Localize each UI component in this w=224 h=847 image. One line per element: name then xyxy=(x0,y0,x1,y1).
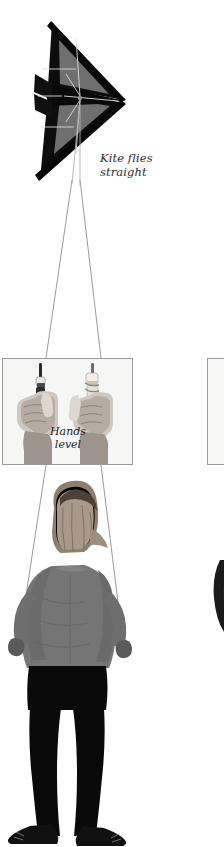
hands-caption-line2: level xyxy=(39,438,97,451)
hands-caption-line1: Hands xyxy=(50,425,86,438)
hands-caption: Hands level xyxy=(39,425,97,451)
second-flyer-graphic xyxy=(196,540,224,680)
kite-caption-line2: straight xyxy=(100,166,176,180)
kite-flyer-graphic xyxy=(0,470,150,847)
adjacent-panel-edge xyxy=(207,358,224,465)
kite-caption-line1: Kite flies xyxy=(100,151,153,165)
hands-level-panel: Hands level xyxy=(2,358,133,465)
kite-caption: Kite flies straight xyxy=(100,152,176,179)
kite-flyer xyxy=(0,470,150,847)
second-flyer-partial xyxy=(196,540,224,680)
kite-instruction-figure: Kite flies straight xyxy=(0,0,224,847)
